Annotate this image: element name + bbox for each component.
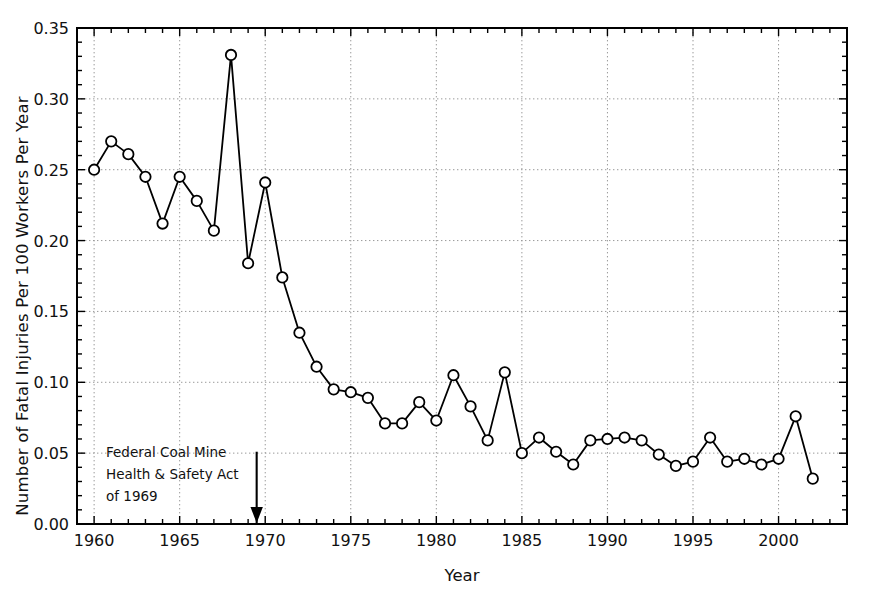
data-point [414,397,424,407]
data-point [294,327,304,337]
chart-figure: Number of Fatal Injuries Per 100 Workers… [0,0,880,612]
data-point [209,225,219,235]
x-tick-label: 1995 [653,531,733,550]
x-tick-label: 1985 [482,531,562,550]
data-point [106,136,116,146]
x-axis-title: Year [77,566,847,585]
data-point [602,434,612,444]
data-point [89,165,99,175]
y-tick-label: 0.30 [5,89,69,108]
data-point [500,367,510,377]
x-tick-label: 1965 [140,531,220,550]
x-tick-label: 1975 [311,531,391,550]
data-point [482,435,492,445]
annotation-arrow [250,452,262,523]
y-tick-label: 0.05 [5,444,69,463]
y-tick-label: 0.20 [5,231,69,250]
data-point [226,50,236,60]
data-point [671,461,681,471]
data-point [157,218,167,228]
data-point [380,418,390,428]
data-point-markers [89,50,818,484]
y-tick-label: 0.35 [5,19,69,38]
x-tick-label: 1990 [567,531,647,550]
data-point [739,454,749,464]
data-point [123,149,133,159]
x-tick-label: 1960 [54,531,134,550]
data-point [756,459,766,469]
data-point [808,473,818,483]
data-point [517,448,527,458]
x-tick-label: 2000 [739,531,819,550]
data-point [688,456,698,466]
data-point [328,384,338,394]
annotation-line-1: Federal Coal Mine [106,444,226,460]
y-tick-label: 0.25 [5,160,69,179]
annotation-line-3: of 1969 [106,488,158,504]
data-point [277,272,287,282]
data-point [431,415,441,425]
data-point [192,196,202,206]
data-point [534,432,544,442]
chart-plot-area [0,0,880,612]
y-tick-label: 0.15 [5,302,69,321]
data-point [174,172,184,182]
data-point [448,370,458,380]
data-point [619,432,629,442]
data-point [568,459,578,469]
y-tick-label: 0.10 [5,373,69,392]
annotation-line-2: Health & Safety Act [106,466,239,482]
data-point [722,456,732,466]
data-series-line [94,55,813,479]
data-point [260,177,270,187]
data-point [363,393,373,403]
data-point [346,387,356,397]
data-point [140,172,150,182]
policy-annotation: Federal Coal Mine Health & Safety Act of… [106,442,239,508]
data-point [311,362,321,372]
data-point [654,449,664,459]
data-point [243,258,253,268]
x-tick-label: 1970 [225,531,305,550]
data-point [397,418,407,428]
data-point [636,435,646,445]
data-point [585,435,595,445]
data-point [465,401,475,411]
data-point [790,411,800,421]
data-point [551,447,561,457]
data-point [773,454,783,464]
x-tick-label: 1980 [396,531,476,550]
data-point [705,432,715,442]
